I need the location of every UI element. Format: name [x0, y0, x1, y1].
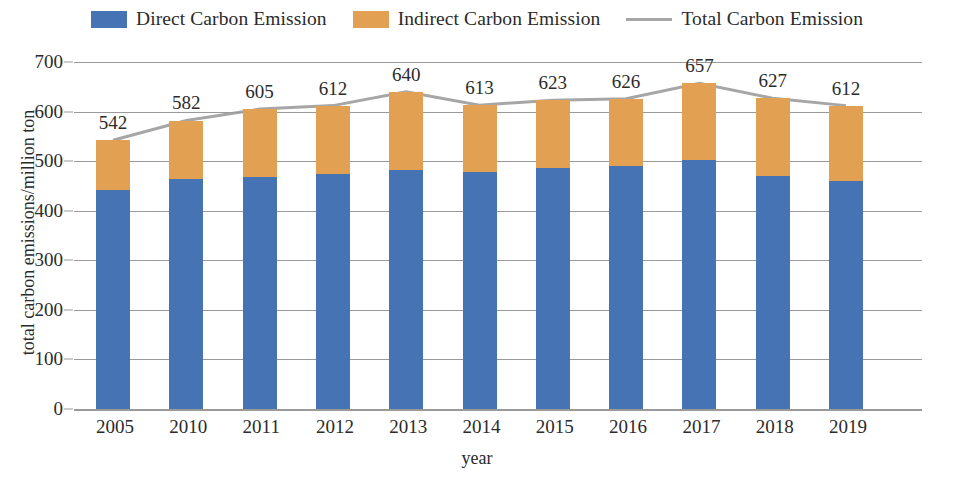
bar-segment-direct[interactable]	[829, 181, 863, 409]
x-tick-label: 2018	[756, 416, 790, 438]
bar-segment-direct[interactable]	[96, 190, 130, 409]
chart-legend: Direct Carbon Emission Indirect Carbon E…	[0, 4, 954, 34]
y-tick-mark	[64, 111, 73, 112]
x-tick-label: 2019	[829, 416, 863, 438]
bar-group[interactable]	[829, 106, 863, 409]
y-tick-label: 0	[54, 398, 64, 420]
legend-item-total: Total Carbon Emission	[626, 8, 863, 30]
y-tick-mark	[64, 62, 73, 63]
x-tick-label: 2015	[536, 416, 570, 438]
bar-segment-direct[interactable]	[609, 166, 643, 409]
legend-swatch-blue-icon	[91, 11, 127, 28]
bar-segment-indirect[interactable]	[316, 106, 350, 174]
bar-group[interactable]	[536, 100, 570, 409]
bar-group[interactable]	[243, 109, 277, 409]
bar-segment-indirect[interactable]	[829, 106, 863, 181]
y-tick-mark	[64, 409, 73, 410]
x-tick-label: 2011	[243, 416, 277, 438]
bar-segment-direct[interactable]	[316, 174, 350, 409]
legend-label-direct: Direct Carbon Emission	[136, 8, 327, 30]
x-tick-label: 2010	[169, 416, 203, 438]
bar-segment-indirect[interactable]	[756, 98, 790, 176]
bar-value-label: 640	[392, 64, 421, 86]
y-tick-mark	[64, 359, 73, 360]
bar-group[interactable]	[316, 106, 350, 409]
gridline	[74, 112, 922, 113]
bar-value-label: 582	[172, 92, 201, 114]
bar-segment-direct[interactable]	[756, 176, 790, 409]
bar-value-label: 626	[612, 71, 641, 93]
legend-label-indirect: Indirect Carbon Emission	[398, 8, 601, 30]
bar-value-label: 657	[685, 55, 714, 77]
y-tick-label: 500	[35, 150, 64, 172]
bar-group[interactable]	[609, 99, 643, 409]
y-tick-label: 700	[35, 51, 64, 73]
y-tick-label: 200	[35, 299, 64, 321]
bar-group[interactable]	[682, 83, 716, 409]
bar-segment-direct[interactable]	[243, 177, 277, 409]
bar-segment-indirect[interactable]	[609, 99, 643, 166]
legend-line-gray-icon	[626, 18, 672, 21]
x-tick-label: 2017	[682, 416, 716, 438]
bar-segment-indirect[interactable]	[463, 105, 497, 171]
bar-group[interactable]	[463, 105, 497, 409]
carbon-emission-chart: Direct Carbon Emission Indirect Carbon E…	[0, 0, 954, 478]
gridline	[74, 62, 922, 63]
x-tick-label: 2014	[463, 416, 497, 438]
y-tick-label: 400	[35, 200, 64, 222]
bar-group[interactable]	[756, 98, 790, 409]
bar-segment-direct[interactable]	[682, 160, 716, 409]
y-tick-label: 100	[35, 348, 64, 370]
bar-value-label: 623	[539, 72, 568, 94]
bar-value-label: 612	[319, 78, 348, 100]
bar-value-label: 613	[465, 77, 494, 99]
bar-segment-direct[interactable]	[463, 172, 497, 409]
y-tick-mark	[64, 161, 73, 162]
bar-group[interactable]	[96, 140, 130, 409]
bar-segment-indirect[interactable]	[169, 121, 203, 180]
x-tick-label: 2016	[609, 416, 643, 438]
x-axis-title: year	[0, 448, 954, 469]
bar-value-label: 542	[99, 112, 128, 134]
plot-area: 0100200300400500600700542200558220106052…	[74, 62, 922, 409]
x-tick-label: 2013	[389, 416, 423, 438]
bar-segment-indirect[interactable]	[96, 140, 130, 190]
bar-segment-indirect[interactable]	[389, 92, 423, 170]
bar-segment-direct[interactable]	[536, 168, 570, 409]
x-tick-label: 2005	[96, 416, 130, 438]
bar-segment-indirect[interactable]	[243, 109, 277, 176]
bar-segment-indirect[interactable]	[682, 83, 716, 160]
y-tick-mark	[64, 210, 73, 211]
bar-group[interactable]	[169, 121, 203, 410]
x-tick-label: 2012	[316, 416, 350, 438]
y-tick-mark	[64, 260, 73, 261]
bar-segment-indirect[interactable]	[536, 100, 570, 168]
legend-label-total: Total Carbon Emission	[681, 8, 863, 30]
bar-value-label: 612	[832, 78, 861, 100]
bar-group[interactable]	[389, 92, 423, 409]
bar-value-label: 605	[245, 81, 274, 103]
x-axis-line	[74, 409, 922, 411]
y-tick-mark	[64, 309, 73, 310]
legend-item-indirect: Indirect Carbon Emission	[353, 8, 601, 30]
legend-swatch-orange-icon	[353, 11, 389, 28]
legend-item-direct: Direct Carbon Emission	[91, 8, 327, 30]
bar-segment-direct[interactable]	[389, 170, 423, 409]
bar-value-label: 627	[758, 70, 787, 92]
y-tick-label: 300	[35, 249, 64, 271]
y-tick-label: 600	[35, 101, 64, 123]
bar-segment-direct[interactable]	[169, 179, 203, 409]
